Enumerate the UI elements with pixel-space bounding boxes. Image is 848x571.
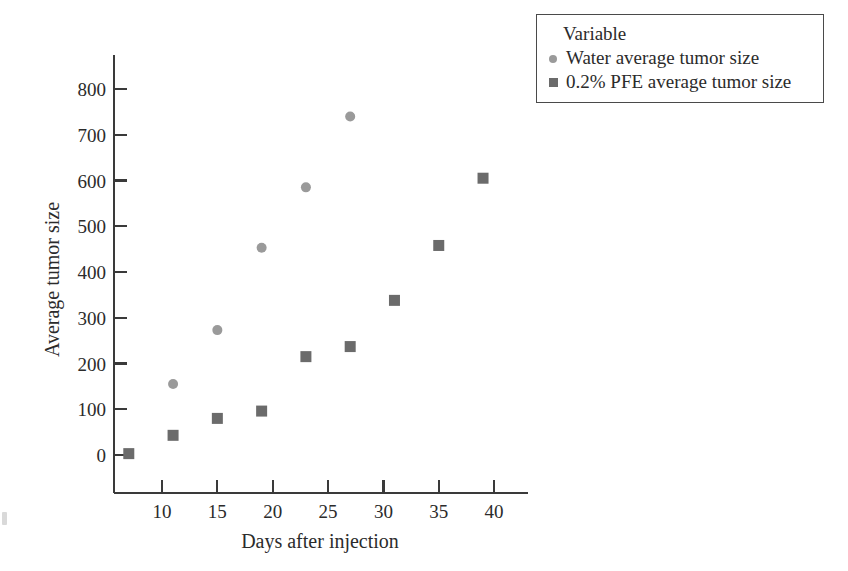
- y-axis-tick-label: 800: [50, 80, 106, 99]
- legend-item-label: Water average tumor size: [566, 47, 759, 69]
- x-axis-tick-label: 40: [485, 502, 504, 521]
- legend-marker-square-icon: [549, 74, 563, 90]
- data-point: [123, 448, 134, 459]
- legend-title: Variable: [563, 23, 813, 45]
- x-axis-ticks: [162, 480, 494, 493]
- x-axis-tick-label: 20: [263, 502, 282, 521]
- y-axis-tick-label: 0: [50, 446, 106, 465]
- data-point: [389, 295, 400, 306]
- legend-item-pfe: 0.2% PFE average tumor size: [549, 71, 813, 93]
- x-axis-tick-label: 30: [374, 502, 393, 521]
- legend-item-label: 0.2% PFE average tumor size: [566, 71, 791, 93]
- data-point: [300, 351, 311, 362]
- data-markers: [123, 111, 488, 459]
- y-axis-ticks: [114, 89, 127, 455]
- data-point: [257, 243, 267, 253]
- x-axis-title: Days after injection: [0, 530, 640, 553]
- x-axis-tick-label: 10: [153, 502, 172, 521]
- data-point: [256, 406, 267, 417]
- axis-lines: [114, 55, 528, 493]
- legend-marker-circle-icon: [549, 51, 563, 67]
- data-point: [212, 413, 223, 424]
- data-point: [301, 182, 311, 192]
- data-point: [168, 379, 178, 389]
- data-point: [478, 173, 489, 184]
- data-point: [212, 325, 222, 335]
- legend: Variable Water average tumor size 0.2% P…: [536, 14, 824, 103]
- data-point: [168, 430, 179, 441]
- data-point: [345, 111, 355, 121]
- x-axis-tick-label: 15: [208, 502, 227, 521]
- legend-item-water: Water average tumor size: [549, 47, 813, 69]
- data-point: [345, 341, 356, 352]
- scan-artifact: [2, 512, 7, 525]
- data-point: [433, 240, 444, 251]
- x-axis-tick-label: 25: [319, 502, 338, 521]
- scatter-chart: 0100200300400500600700800 10152025303540…: [0, 0, 848, 571]
- x-axis-tick-label: 35: [429, 502, 448, 521]
- y-axis-title: Average tumor size: [41, 130, 64, 430]
